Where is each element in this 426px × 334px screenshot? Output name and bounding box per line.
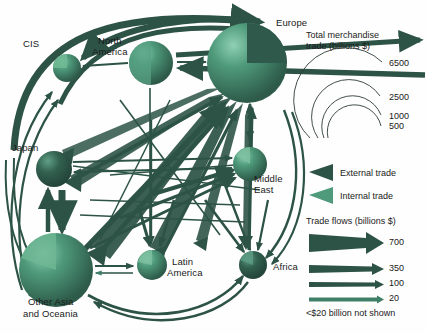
flow-legend-value-700: 700	[389, 237, 404, 247]
external-trade-wedge	[309, 164, 333, 181]
flow-legend-value-20: 20	[389, 293, 399, 303]
region-label-other-asia-line2: and Oceania	[23, 309, 78, 320]
trade-flow-figure: CIS North America Europe Japan Middle Ea…	[0, 0, 426, 334]
flow-legend-footnote: <$20 billion not shown	[306, 308, 395, 318]
region-spheres	[19, 23, 287, 307]
size-legend-arcs	[294, 48, 382, 138]
size-legend-value-500: 500	[389, 121, 404, 131]
sphere-africa[interactable]	[239, 251, 267, 279]
internal-trade-label: Internal trade	[340, 191, 393, 201]
flow-arrow-700	[309, 232, 384, 254]
size-legend-title-line1: Total merchandise	[306, 30, 416, 41]
external-trade-label: External trade	[340, 168, 396, 178]
size-legend-title-line2: trade (billions $)	[306, 41, 416, 52]
size-legend-value-1000: 1000	[389, 111, 409, 121]
sphere-north-america[interactable]	[129, 41, 173, 85]
flow-legend-arrows	[309, 232, 384, 304]
flow-arrow-100	[309, 280, 384, 289]
sphere-japan[interactable]	[36, 151, 72, 187]
flow-legend-value-350: 350	[389, 263, 404, 273]
region-label-cis: CIS	[23, 39, 39, 50]
region-label-europe: Europe	[276, 18, 307, 29]
sphere-europe[interactable]	[207, 23, 287, 103]
trade-type-wedges	[309, 164, 333, 204]
flow-legend-value-100: 100	[389, 278, 404, 288]
region-label-africa: Africa	[273, 262, 298, 273]
region-label-middle-east-line2: East	[254, 185, 273, 196]
size-legend-value-6500: 6500	[389, 58, 409, 68]
flow-arrow-350	[309, 263, 384, 275]
otherasia-latin-flows	[95, 266, 133, 273]
region-label-north-america-line1: North	[98, 36, 122, 47]
region-label-japan: Japan	[12, 143, 38, 154]
japan-otherasia-flows	[48, 190, 62, 232]
sphere-cis[interactable]	[53, 54, 81, 82]
africa-asia-arcs	[88, 276, 248, 320]
internal-trade-wedge	[309, 187, 333, 204]
sphere-latin-america[interactable]	[137, 250, 167, 280]
region-label-other-asia-line1: Other Asia	[28, 297, 73, 308]
region-label-north-america-line2: America	[92, 47, 128, 58]
size-legend-value-2500: 2500	[389, 92, 409, 102]
region-label-latin-america-line2: America	[167, 268, 203, 279]
region-label-middle-east-line1: Middle	[254, 174, 283, 185]
flow-arrow-20	[309, 296, 384, 304]
region-label-latin-america-line1: Latin	[172, 257, 193, 268]
flow-legend-title: Trade flows (billions $)	[306, 216, 396, 226]
